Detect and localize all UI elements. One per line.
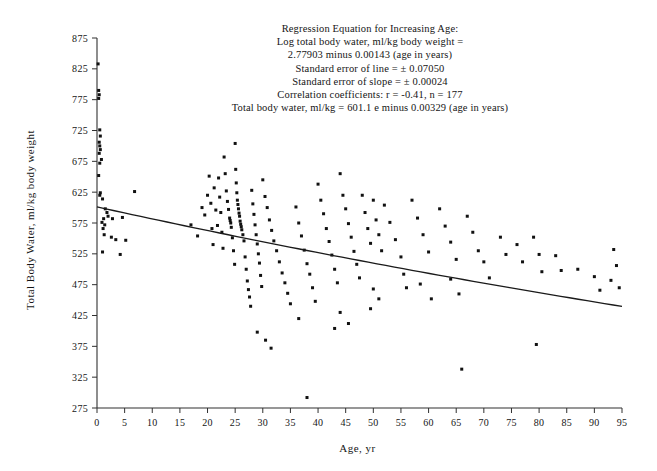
- data-point: [369, 242, 372, 245]
- data-point: [97, 97, 100, 100]
- data-point: [297, 222, 300, 225]
- data-point: [266, 206, 269, 209]
- x-tick-label: 55: [396, 417, 407, 428]
- data-point: [275, 249, 278, 252]
- x-tick-label: 70: [479, 417, 490, 428]
- data-point: [217, 176, 220, 179]
- data-point: [203, 213, 206, 216]
- x-tick-label: 35: [285, 417, 296, 428]
- data-point: [306, 396, 309, 399]
- y-tick-label: 625: [72, 187, 88, 198]
- data-point: [377, 233, 380, 236]
- data-point: [98, 152, 101, 155]
- data-point: [593, 275, 596, 278]
- data-point: [405, 286, 408, 289]
- data-point: [97, 89, 100, 92]
- data-point: [103, 223, 106, 226]
- data-point: [416, 217, 419, 220]
- data-point: [98, 162, 101, 165]
- data-point: [213, 186, 216, 189]
- data-point: [504, 253, 507, 256]
- data-point: [261, 178, 264, 181]
- data-point: [225, 189, 228, 192]
- data-point: [499, 236, 502, 239]
- data-point: [366, 227, 369, 230]
- data-point: [576, 268, 579, 271]
- data-point: [248, 296, 251, 299]
- x-tick-label: 40: [313, 417, 324, 428]
- data-point: [208, 175, 211, 178]
- data-point: [133, 190, 136, 193]
- data-point: [97, 62, 100, 65]
- data-point: [99, 148, 102, 151]
- x-axis-ticks: 05101520253035404550556065707580859095: [94, 408, 627, 428]
- data-point: [259, 274, 262, 277]
- data-point: [294, 205, 297, 208]
- data-point: [278, 260, 281, 263]
- data-point: [102, 227, 105, 230]
- data-point: [98, 93, 101, 96]
- x-tick-label: 25: [230, 417, 241, 428]
- data-point: [243, 239, 246, 242]
- data-point: [372, 199, 375, 202]
- data-point: [237, 207, 240, 210]
- data-point: [107, 215, 110, 218]
- data-point: [98, 144, 101, 147]
- data-point: [249, 305, 252, 308]
- data-point: [422, 233, 425, 236]
- data-point: [246, 279, 249, 282]
- data-point: [100, 158, 103, 161]
- data-point: [419, 283, 422, 286]
- data-point: [244, 255, 247, 258]
- data-point: [214, 209, 217, 212]
- y-tick-label: 675: [72, 156, 88, 167]
- y-tick-label: 425: [72, 310, 88, 321]
- y-tick-label: 275: [72, 403, 88, 414]
- data-point: [336, 281, 339, 284]
- data-point: [231, 236, 234, 239]
- data-point: [333, 327, 336, 330]
- x-tick-label: 65: [451, 417, 462, 428]
- x-tick-label: 90: [589, 417, 600, 428]
- y-axis-ticks: 275325375425475525575625675725775825875: [72, 33, 97, 414]
- data-point: [560, 269, 563, 272]
- data-point: [532, 236, 535, 239]
- data-point: [119, 253, 122, 256]
- data-point: [264, 339, 267, 342]
- data-point: [457, 292, 460, 295]
- chart-figure: Regression Equation for Increasing Age: …: [0, 0, 657, 471]
- data-point: [223, 156, 226, 159]
- data-point: [372, 287, 375, 290]
- data-point: [540, 270, 543, 273]
- data-point: [98, 141, 101, 144]
- data-point: [98, 128, 101, 131]
- data-point: [325, 227, 328, 230]
- data-point: [101, 197, 104, 200]
- data-point: [286, 292, 289, 295]
- data-point: [234, 168, 237, 171]
- data-point: [615, 264, 618, 267]
- data-point: [252, 213, 255, 216]
- x-tick-label: 15: [175, 417, 186, 428]
- data-point: [402, 273, 405, 276]
- data-point: [460, 368, 463, 371]
- data-point: [598, 289, 601, 292]
- data-point: [322, 212, 325, 215]
- data-point: [230, 226, 233, 229]
- data-point: [344, 207, 347, 210]
- data-point: [455, 258, 458, 261]
- data-point: [236, 199, 239, 202]
- data-point: [250, 189, 253, 192]
- x-tick-label: 0: [94, 417, 99, 428]
- data-point: [212, 243, 215, 246]
- data-point: [609, 279, 612, 282]
- data-point: [102, 217, 105, 220]
- data-point: [319, 199, 322, 202]
- data-point: [240, 225, 243, 228]
- data-point: [377, 297, 380, 300]
- y-tick-label: 475: [72, 279, 88, 290]
- y-tick-label: 575: [72, 218, 88, 229]
- data-point: [317, 183, 320, 186]
- data-point: [260, 285, 263, 288]
- x-tick-label: 85: [561, 417, 572, 428]
